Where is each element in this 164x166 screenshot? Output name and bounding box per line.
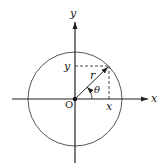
polar-coordinate-diagram: y x O r θ x y <box>0 0 164 166</box>
angle-arc <box>87 87 92 99</box>
angle-label: θ <box>94 84 100 95</box>
origin-label: O <box>65 99 73 110</box>
x-axis-label: x <box>151 92 158 105</box>
x-projection-label: x <box>106 100 113 113</box>
origin-point <box>73 97 77 101</box>
y-axis-label: y <box>69 7 77 20</box>
y-projection-label: y <box>63 60 71 73</box>
radius-label: r <box>90 69 96 82</box>
